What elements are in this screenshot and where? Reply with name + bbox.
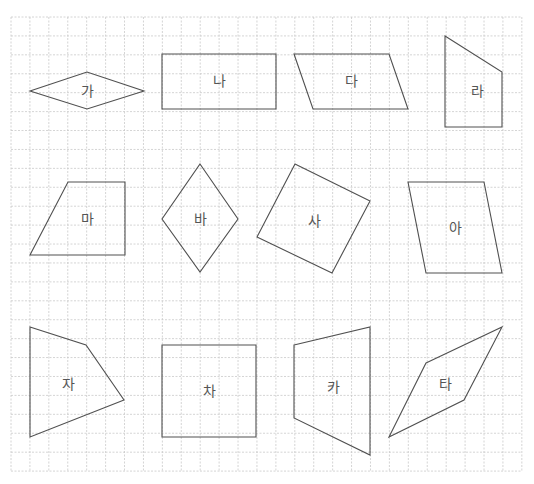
quadrilateral-shape: 아 xyxy=(408,182,502,273)
shape-label: 자 xyxy=(62,376,75,392)
shape-label: 카 xyxy=(327,379,340,395)
grid-diagram: 가나다라마바사아자차카타 xyxy=(0,0,534,484)
quadrilateral-shape: 자 xyxy=(30,327,124,437)
shape-label: 라 xyxy=(471,83,484,99)
shape-label: 가 xyxy=(81,83,94,99)
shape-label: 마 xyxy=(81,211,94,227)
quadrilateral-shape: 카 xyxy=(294,327,370,455)
quadrilateral-shape: 타 xyxy=(389,327,502,437)
shape-outline xyxy=(30,327,124,437)
shape-label: 나 xyxy=(213,73,226,89)
shape-label: 타 xyxy=(439,376,452,392)
shape-label: 다 xyxy=(345,73,358,89)
shapes-group: 가나다라마바사아자차카타 xyxy=(30,36,502,455)
shape-label: 아 xyxy=(449,220,462,236)
quadrilateral-shape: 차 xyxy=(162,345,256,437)
quadrilateral-shape: 나 xyxy=(162,54,276,109)
shape-outline xyxy=(445,36,502,127)
shape-label: 사 xyxy=(308,213,321,229)
shape-label: 차 xyxy=(203,383,216,399)
quadrilateral-shape: 다 xyxy=(294,54,408,109)
shape-label: 바 xyxy=(194,211,207,227)
quadrilateral-shape: 라 xyxy=(445,36,502,127)
